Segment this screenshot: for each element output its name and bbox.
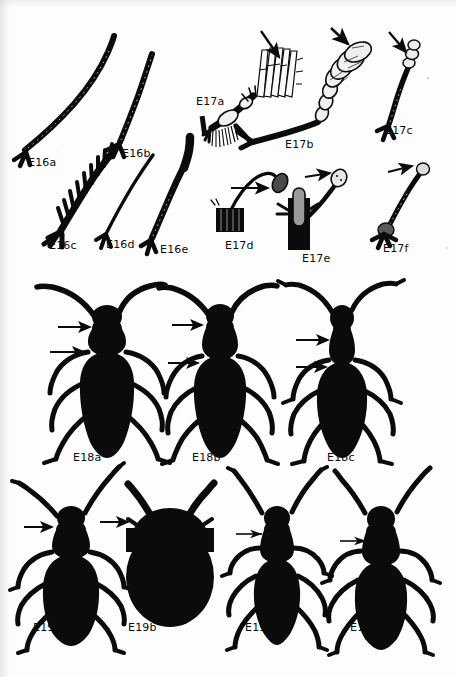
figure-label-E17e: E17e xyxy=(302,253,331,264)
figure-label-E19a: E19a xyxy=(33,622,62,633)
figure-label-E17d: E17d xyxy=(225,240,254,251)
figure-label-E19b: E19b xyxy=(128,622,157,633)
illustration-plate: E16a E16b E16c E16d E16e E17a E17b E17c … xyxy=(0,0,456,677)
figure-label-E17c: E17c xyxy=(385,125,413,136)
figure-label-E17f: E17f xyxy=(383,243,409,254)
figure-label-E16b: E16b xyxy=(122,148,151,159)
figure-label-E16d: E16d xyxy=(106,239,135,250)
figure-label-E19d: E19d xyxy=(350,622,379,633)
figure-label-E16e: E16e xyxy=(160,244,189,255)
figure-label-E18b: E18b xyxy=(192,452,221,463)
figure-label-E17a: E17a xyxy=(196,96,225,107)
plate-artwork xyxy=(0,0,456,677)
figure-label-E19c: E19c xyxy=(245,622,273,633)
figure-label-E16a: E16a xyxy=(28,157,57,168)
figure-label-E18a: E18a xyxy=(73,452,102,463)
figure-label-E17b: E17b xyxy=(285,139,314,150)
figure-label-E18c: E18c xyxy=(327,452,355,463)
figure-label-E16c: E16c xyxy=(49,240,77,251)
